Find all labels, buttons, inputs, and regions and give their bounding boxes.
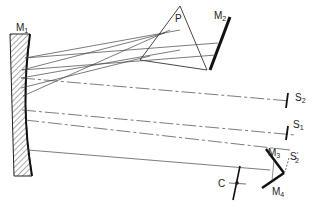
label-m2: M2 [214,10,226,22]
concave-mirror-m1 [10,34,32,176]
label-prism-p: P [175,13,182,24]
light-rays [21,30,295,170]
slit-s1 [286,126,288,140]
slit-s2-prime [285,158,289,172]
slit-s2 [286,93,288,108]
label-s2-prime: S′2 [290,151,299,164]
optical-diagram: M1 M2 P S2 S1 M3 S′2 M4 C [0,0,315,209]
label-s1: S1 [293,119,304,131]
label-m1: M1 [16,22,28,34]
label-c: C [218,178,225,189]
label-m4: M4 [272,186,284,198]
label-s2: S2 [295,92,306,104]
